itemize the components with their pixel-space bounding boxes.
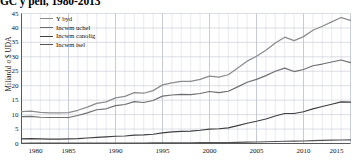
legend-item[interactable]: Incwm uchel (40, 24, 95, 32)
series-line (22, 102, 351, 139)
series-line (22, 60, 351, 117)
y-tick-label: 30 (3, 53, 19, 61)
x-tick-label: 2005 (240, 147, 274, 155)
x-tick-label: 2000 (193, 147, 227, 155)
x-tick-label: 1990 (99, 147, 133, 155)
x-tick-label: 1980 (19, 147, 53, 155)
x-tick-label: 2015 (320, 147, 353, 155)
y-tick-label: 45 (3, 10, 19, 18)
legend-label: Incwm uchel (56, 24, 90, 32)
x-tick-label: 2010 (287, 147, 321, 155)
series-line (22, 140, 351, 143)
legend-swatch-icon (40, 18, 53, 19)
legend-swatch-icon (40, 36, 53, 37)
chart-container: GC y pen, 1980-2013 Miliardd o $ UDA 051… (0, 0, 353, 163)
y-tick-label: 20 (3, 82, 19, 90)
x-tick-label: 1985 (52, 147, 86, 155)
y-tick-label: 40 (3, 24, 19, 32)
legend-item[interactable]: Incwm canolig (40, 32, 95, 40)
legend-swatch-icon (40, 44, 53, 45)
y-tick-label: 25 (3, 67, 19, 75)
y-tick-label: 5 (3, 125, 19, 133)
chart-legend: Y bydIncwm uchelIncwm canoligIncwm isel (40, 15, 95, 49)
legend-swatch-icon (40, 27, 53, 28)
y-tick-label: 0 (3, 140, 19, 148)
x-tick-label: 1995 (146, 147, 180, 155)
legend-label: Incwm canolig (56, 32, 95, 40)
legend-label: Y byd (56, 15, 72, 23)
y-tick-label: 35 (3, 38, 19, 46)
y-tick-label: 15 (3, 96, 19, 104)
legend-item[interactable]: Y byd (40, 15, 95, 23)
legend-item[interactable]: Incwm isel (40, 41, 95, 49)
legend-label: Incwm isel (56, 41, 85, 49)
y-tick-label: 10 (3, 111, 19, 119)
